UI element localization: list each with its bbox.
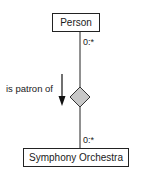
entity-person[interactable]: Person (52, 13, 100, 32)
relationship-label: is patron of (6, 84, 53, 94)
entity-person-label: Person (60, 17, 92, 28)
relationship-diamond (70, 87, 90, 107)
multiplicity-bottom: 0:* (83, 136, 94, 145)
direction-arrow-icon (59, 74, 66, 106)
entity-symphony-orchestra[interactable]: Symphony Orchestra (23, 148, 129, 167)
entity-orchestra-label: Symphony Orchestra (29, 152, 123, 163)
multiplicity-top: 0:* (83, 38, 94, 47)
